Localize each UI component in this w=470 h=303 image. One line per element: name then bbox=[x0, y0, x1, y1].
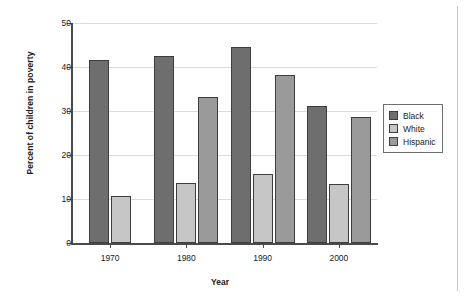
x-axis-title: Year bbox=[60, 277, 380, 287]
bar-black-1990 bbox=[231, 47, 251, 243]
x-tick-label: 1990 bbox=[238, 253, 288, 263]
bar-hispanic-1980 bbox=[198, 97, 218, 243]
y-axis-title: Percent of children in poverty bbox=[25, 23, 35, 203]
y-tick-label: 40 bbox=[45, 62, 71, 72]
y-tick-label: 0 bbox=[45, 238, 71, 248]
bar-white-1970 bbox=[111, 196, 131, 243]
x-axis-line bbox=[71, 243, 378, 245]
legend-swatch-hispanic bbox=[389, 137, 398, 146]
legend-swatch-black bbox=[389, 111, 398, 120]
x-tick-mark bbox=[339, 243, 340, 248]
legend-label: White bbox=[403, 124, 425, 134]
chart-legend: BlackWhiteHispanic bbox=[383, 104, 443, 153]
bar-black-2000 bbox=[307, 106, 327, 243]
figure-border-right bbox=[457, 6, 458, 291]
legend-item-black: Black bbox=[389, 109, 436, 122]
legend-label: Black bbox=[403, 111, 424, 121]
bar-black-1980 bbox=[154, 56, 174, 243]
bar-hispanic-1990 bbox=[275, 75, 295, 243]
bar-black-1970 bbox=[89, 60, 109, 243]
gridline bbox=[72, 67, 377, 68]
x-tick-mark bbox=[263, 243, 264, 248]
chart-figure: Percent of children in poverty Year 0102… bbox=[0, 0, 470, 303]
legend-item-white: White bbox=[389, 122, 436, 135]
bar-white-2000 bbox=[329, 184, 349, 243]
legend-swatch-white bbox=[389, 124, 398, 133]
bar-hispanic-2000 bbox=[351, 117, 371, 243]
y-tick-label: 10 bbox=[45, 194, 71, 204]
gridline bbox=[72, 155, 377, 156]
plot-area: 01020304050 1970198019902000 bbox=[72, 23, 377, 243]
gridline bbox=[72, 111, 377, 112]
legend-item-hispanic: Hispanic bbox=[389, 135, 436, 148]
x-tick-mark bbox=[186, 243, 187, 248]
legend-label: Hispanic bbox=[403, 137, 436, 147]
bar-white-1980 bbox=[176, 183, 196, 243]
y-tick-label: 50 bbox=[45, 18, 71, 28]
gridline bbox=[72, 23, 377, 24]
x-tick-label: 1980 bbox=[161, 253, 211, 263]
bar-white-1990 bbox=[253, 174, 273, 243]
y-tick-label: 30 bbox=[45, 106, 71, 116]
y-axis-line bbox=[71, 23, 73, 243]
y-tick-label: 20 bbox=[45, 150, 71, 160]
x-tick-label: 1970 bbox=[85, 253, 135, 263]
x-tick-label: 2000 bbox=[314, 253, 364, 263]
x-tick-mark bbox=[110, 243, 111, 248]
